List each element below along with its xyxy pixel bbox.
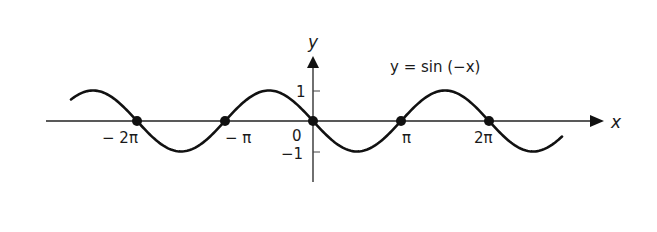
y-axis-label: y <box>307 32 319 52</box>
zero-point <box>308 116 318 126</box>
x-tick-label-neg-2pi: − 2π <box>102 129 138 147</box>
zero-point <box>220 116 230 126</box>
zero-point <box>484 116 494 126</box>
sine-chart: y x y = sin (−x) 1 −1 0 − 2π − π π 2π <box>0 0 657 232</box>
y-tick-label-neg1: −1 <box>281 145 303 163</box>
x-tick-label-2pi: 2π <box>474 129 493 147</box>
equation-label: y = sin (−x) <box>390 58 480 76</box>
x-axis-arrow-icon <box>590 115 604 127</box>
zero-point <box>396 116 406 126</box>
x-tick-label-pi: π <box>402 129 411 147</box>
y-axis-arrow-icon <box>307 56 319 68</box>
zero-point <box>132 116 142 126</box>
y-tick-label-1: 1 <box>296 83 306 101</box>
origin-label: 0 <box>292 127 302 145</box>
x-axis-label: x <box>610 112 622 132</box>
x-tick-label-neg-pi: − π <box>225 129 251 147</box>
